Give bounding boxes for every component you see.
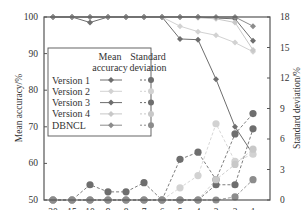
y-tick-label: 70 [29,122,39,132]
std-marker [194,149,201,156]
y-tick-label: 90 [29,49,39,59]
x-tick-label: 4 [196,207,201,210]
mean-marker [195,29,201,35]
std-marker [231,161,238,168]
std-marker [249,110,256,117]
x-tick-label: 6 [160,207,165,210]
legend-header-std-2: deviation [129,62,166,73]
y2-tick-label: 9 [280,104,285,114]
x-tick-label: 1 [251,207,256,210]
std-marker [212,176,219,183]
y2-tick-label: 18 [280,12,290,22]
legend-std-marker [148,77,154,83]
legend-header-mean-1: Mean [99,51,122,62]
mean-marker [177,23,183,29]
std-marker [249,125,256,132]
y-tick-label: 80 [29,85,39,95]
x-tick-label: 5 [178,207,183,210]
y2-tick-label: 3 [280,165,285,175]
chart: 50607080901000369121518201510987654321nT… [0,0,308,210]
mean-marker [232,124,238,130]
x-tick-label: 15 [67,207,77,210]
mean-marker [213,32,219,38]
x-tick-label: 3 [214,207,219,210]
legend-label: DBNCL [52,120,86,131]
std-marker [194,172,201,179]
y-tick-label: 50 [29,195,39,205]
x-tick-label: 10 [85,207,95,210]
legend: MeanaccuracyStandarddeviationVersion 1Ve… [48,48,167,136]
mean-marker [232,40,238,46]
mean-marker [195,37,201,43]
std-marker [231,130,238,137]
y2-tick-label: 6 [280,134,285,144]
legend-std-marker [148,111,154,117]
mean-line-1 [53,17,253,52]
legend-std-marker [148,88,154,94]
legend-label: Version 1 [52,75,90,86]
std-line-2 [53,129,253,200]
mean-line-3 [53,17,253,50]
legend-label: Version 3 [52,97,90,108]
x-tick-label: 8 [124,207,129,210]
std-marker [249,176,256,183]
legend-header-std-1: Standard [130,51,166,62]
y-tick-label: 100 [24,12,39,22]
mean-marker [250,23,256,29]
std-marker [104,188,111,195]
y2-tick-label: 12 [280,73,290,83]
y-tick-label: 60 [29,158,39,168]
std-marker [86,181,93,188]
x-tick-label: 7 [142,207,147,210]
legend-label: Version 2 [52,86,90,97]
x-tick-label: 20 [48,207,58,210]
mean-marker [232,19,238,25]
legend-std-marker [148,122,154,128]
legend-label: Version 4 [52,108,90,119]
legend-header-mean-2: accuracy [92,62,128,73]
mean-marker [87,19,93,25]
std-marker [176,156,183,163]
std-marker [249,146,256,153]
y2-tick-label: 15 [280,43,290,53]
mean-marker [213,76,219,82]
y2-axis-label: Standard deviation/% [292,67,302,149]
std-line-4 [53,180,253,200]
x-tick-label: 9 [106,207,111,210]
legend-std-marker [148,100,154,106]
std-marker [231,181,238,188]
x-tick-label: 2 [233,207,238,210]
std-marker [212,120,219,127]
std-marker [176,184,183,191]
std-marker [140,179,147,186]
y2-tick-label: 0 [280,195,285,205]
std-marker [122,188,129,195]
std-line-3 [53,149,253,200]
y-axis-label: Mean accuracy/% [14,74,24,142]
